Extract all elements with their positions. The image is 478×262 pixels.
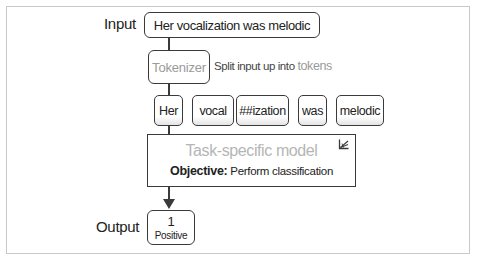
connector-tokenizer-tokens — [168, 84, 170, 95]
token-text: was — [302, 104, 323, 118]
token-box: Her — [154, 95, 183, 126]
model-title: Task-specific model — [148, 142, 355, 160]
token-box: was — [298, 95, 327, 126]
token-text: vocal — [199, 104, 226, 118]
tokenizer-note-prefix: Split input up into — [214, 60, 295, 72]
token-box: ##ization — [236, 95, 289, 126]
connector-tokens-model — [168, 126, 170, 134]
connector-input-tokenizer — [168, 38, 170, 50]
token-text: Her — [159, 104, 178, 118]
token-box: melodic — [336, 95, 384, 126]
model-objective: Objective: Perform classification — [148, 164, 355, 178]
input-text: Her vocalization was melodic — [154, 18, 310, 33]
token-text: ##ization — [239, 104, 285, 118]
output-label: Output — [96, 218, 139, 235]
model-objective-label: Objective: — [170, 164, 227, 178]
input-text-box: Her vocalization was melodic — [144, 12, 320, 38]
tokenizer-box: Tokenizer — [148, 50, 210, 84]
arrow-down-icon — [163, 199, 175, 209]
token-box: vocal — [192, 95, 234, 126]
model-objective-text: Perform classification — [230, 165, 333, 177]
tokenizer-note: Split input up into tokens — [214, 59, 332, 73]
output-box: 1 Positive — [147, 210, 195, 245]
diagram-frame — [6, 6, 470, 254]
output-class-label: Positive — [155, 231, 188, 241]
tokenizer-note-highlight: tokens — [297, 59, 331, 73]
tokenizer-label: Tokenizer — [152, 60, 206, 75]
input-label: Input — [104, 15, 136, 32]
task-specific-model-box: Task-specific model Objective: Perform c… — [147, 134, 356, 187]
trainable-adjust-icon — [338, 138, 350, 150]
output-value: 1 — [167, 215, 174, 228]
token-text: melodic — [340, 104, 380, 118]
